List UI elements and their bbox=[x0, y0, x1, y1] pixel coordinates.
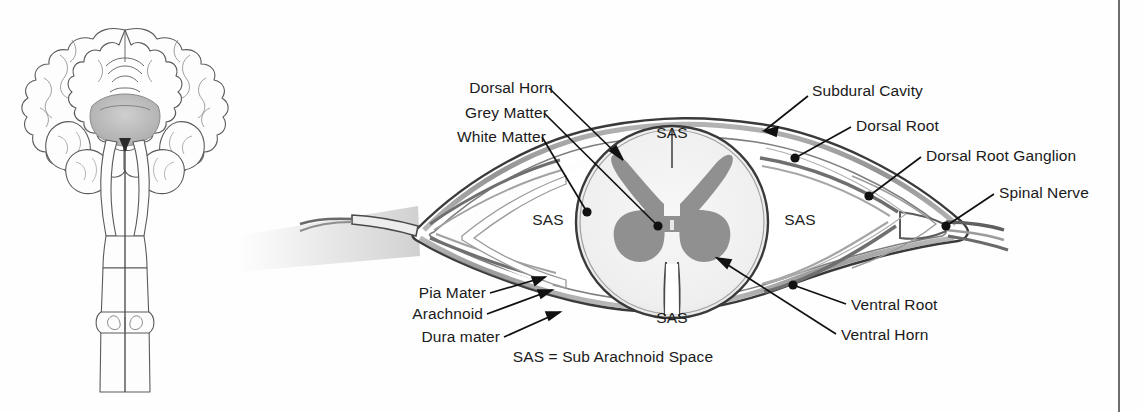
brain-illustration bbox=[22, 28, 228, 392]
label-ventral-root: Ventral Root bbox=[851, 297, 938, 313]
legend-sas-expansion: SAS = Sub Arachnoid Space bbox=[513, 348, 713, 366]
label-subdural-cavity: Subdural Cavity bbox=[812, 83, 923, 99]
label-spinal-nerve: Spinal Nerve bbox=[999, 185, 1089, 201]
label-pia-mater: Pia Mater bbox=[419, 285, 486, 301]
label-dorsal-horn: Dorsal Horn bbox=[469, 80, 553, 96]
label-dorsal-root: Dorsal Root bbox=[856, 118, 939, 134]
sas-marker-bottom: SAS bbox=[656, 309, 688, 327]
label-grey-matter: Grey Matter bbox=[465, 105, 548, 121]
sas-marker-right: SAS bbox=[784, 211, 816, 229]
figure-page: Dorsal Horn Grey Matter White Matter Sub… bbox=[0, 0, 1142, 412]
label-white-matter: White Matter bbox=[457, 129, 546, 145]
label-ventral-horn: Ventral Horn bbox=[841, 327, 928, 343]
label-arachnoid: Arachnoid bbox=[412, 306, 483, 322]
label-dura-mater: Dura mater bbox=[421, 329, 500, 345]
shadow-wedge bbox=[236, 206, 420, 272]
label-dorsal-root-ganglion: Dorsal Root Ganglion bbox=[926, 148, 1076, 164]
sas-marker-left: SAS bbox=[532, 211, 564, 229]
sas-marker-top: SAS bbox=[656, 124, 688, 142]
page-border-rule bbox=[1118, 0, 1120, 412]
